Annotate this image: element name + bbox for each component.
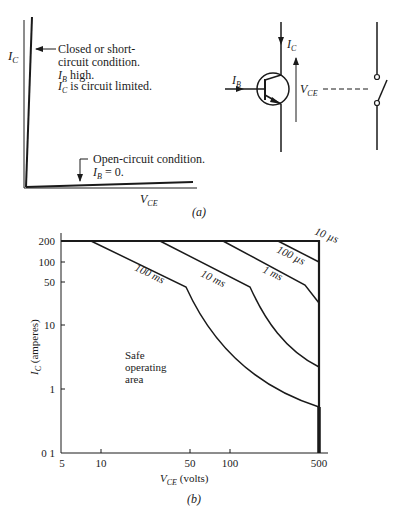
closed-annotation-line2: circuit condition.: [58, 55, 140, 69]
a-x-label: VCE: [140, 192, 158, 208]
svg-text:1: 1: [50, 383, 56, 395]
svg-text:5: 5: [59, 457, 65, 469]
b-y-ticks: [61, 241, 65, 389]
open-condition-line: [26, 182, 193, 187]
svg-text:10: 10: [44, 319, 56, 331]
closed-annotation-line4: IC is circuit limited.: [57, 79, 152, 95]
svg-text:100: 100: [222, 457, 239, 469]
svg-text:500: 500: [311, 457, 328, 469]
b-x-tick-labels: 5 10 50 100 500: [59, 457, 328, 469]
switch-icon: [375, 22, 388, 150]
svg-text:Safe: Safe: [125, 349, 145, 361]
svg-text:200: 200: [39, 235, 56, 247]
svg-text:50: 50: [185, 457, 197, 469]
vce-label: VCE: [300, 82, 318, 98]
b-x-ticks: [101, 449, 230, 453]
caption-a: (a): [192, 205, 206, 219]
svg-text:100: 100: [39, 256, 56, 268]
ic-label: IC: [286, 37, 297, 53]
label-100us: 100 µs: [275, 243, 307, 267]
svg-text:0 1: 0 1: [41, 447, 55, 459]
svg-text:10: 10: [96, 457, 108, 469]
a-y-label: IC: [7, 48, 19, 65]
svg-text:50: 50: [44, 276, 56, 288]
b-x-label: VCE (volts): [160, 472, 209, 487]
safe-operating-area-label: Safe operating area: [125, 349, 167, 385]
b-y-label: IC (amperes): [28, 319, 43, 376]
ib-label: IB: [231, 73, 241, 89]
open-annotation-line2: IB = 0.: [92, 165, 124, 181]
svg-text:area: area: [125, 373, 143, 385]
label-100ms: 100 ms: [133, 261, 167, 286]
figure-a: IC VCE Closed or short- circuit conditio…: [7, 17, 387, 219]
figure-b: 200 100 50 10 1 0 1 5 10 50 100 500 VCE …: [28, 225, 340, 506]
svg-text:operating: operating: [125, 361, 167, 373]
closed-condition-line: [26, 17, 32, 187]
caption-b: (b): [187, 492, 201, 506]
open-arrow-icon: [80, 159, 88, 181]
figure-canvas: IC VCE Closed or short- circuit conditio…: [0, 0, 394, 518]
label-10ms: 10 ms: [199, 267, 228, 289]
closed-annotation-line1: Closed or short-: [58, 42, 135, 56]
label-1ms: 1 ms: [261, 263, 285, 283]
b-y-tick-labels: 200 100 50 10 1 0 1: [39, 235, 56, 459]
open-annotation-line1: Open-circuit condition.: [93, 152, 205, 166]
transistor-icon: [225, 22, 289, 152]
